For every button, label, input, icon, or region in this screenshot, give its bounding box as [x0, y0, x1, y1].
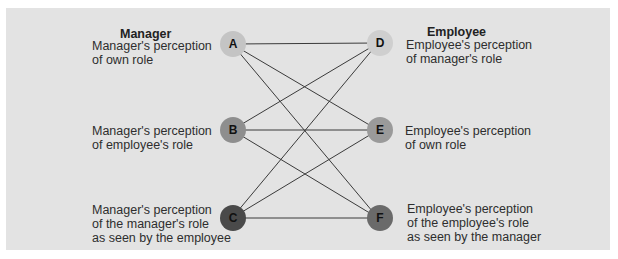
- node-e-label: Employee's perception of own role: [405, 124, 531, 152]
- node-a: A: [220, 31, 246, 57]
- node-a-letter: A: [229, 37, 238, 51]
- node-e-letter: E: [376, 123, 384, 137]
- node-c-label: Manager's perception of the manager's ro…: [92, 203, 231, 245]
- node-b: B: [220, 117, 246, 143]
- node-f: F: [367, 205, 393, 231]
- node-d-letter: D: [376, 36, 385, 50]
- node-b-label: Manager's perception of employee's role: [92, 124, 212, 152]
- node-c: C: [220, 205, 246, 231]
- node-d-label: Employee's perception of manager's role: [406, 38, 532, 66]
- node-e: E: [367, 117, 393, 143]
- node-a-label: Manager's perception of own role: [92, 39, 212, 67]
- node-b-letter: B: [229, 123, 238, 137]
- edge-a-d: [232, 43, 378, 44]
- node-d: D: [367, 30, 393, 56]
- node-f-letter: F: [376, 211, 383, 225]
- node-c-letter: C: [229, 211, 238, 225]
- node-f-label: Employee's perception of the employee's …: [407, 202, 541, 244]
